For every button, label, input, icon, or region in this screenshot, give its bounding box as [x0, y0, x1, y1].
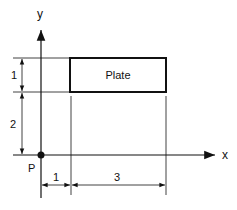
plate-diagram: y x Plate 1 2 1 3 P — [0, 0, 237, 210]
origin-point — [38, 152, 45, 159]
origin-label: P — [28, 162, 35, 174]
dimension-label-plate-width: 3 — [114, 171, 120, 183]
dimension-label-plate-offset-y: 2 — [10, 118, 16, 130]
dimension-label-plate-height: 1 — [11, 69, 17, 81]
y-axis-label: y — [37, 7, 43, 21]
x-axis-label: x — [222, 148, 228, 162]
dimension-label-plate-offset-x: 1 — [53, 171, 59, 183]
plate-label: Plate — [105, 69, 130, 81]
